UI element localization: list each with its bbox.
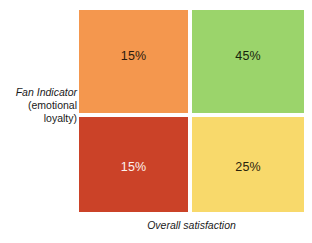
y-axis-label: Fan Indicator (emotional loyalty) <box>0 86 77 125</box>
y-axis-label-line-3: loyalty) <box>0 112 77 125</box>
y-axis-label-line-2: (emotional <box>0 99 77 112</box>
quadrant-value-bottom-right: 25% <box>235 160 260 174</box>
quadrant-value-top-right: 45% <box>235 49 260 63</box>
quadrant-cell-bottom-right[interactable]: 25% <box>192 117 304 212</box>
quadrant-cell-top-left[interactable]: 15% <box>79 10 188 113</box>
quadrant-cell-top-right[interactable]: 45% <box>192 10 304 113</box>
quadrant-cell-bottom-left[interactable]: 15% <box>79 117 188 212</box>
quadrant-value-top-left: 15% <box>121 49 146 63</box>
x-axis-label: Overall satisfaction <box>79 219 304 232</box>
quadrant-grid: 15% 45% 15% 25% <box>79 10 304 212</box>
quadrant-value-bottom-left: 15% <box>121 160 146 174</box>
y-axis-label-line-1: Fan Indicator <box>0 86 77 99</box>
quadrant-chart: Fan Indicator (emotional loyalty) 15% 45… <box>0 0 312 243</box>
